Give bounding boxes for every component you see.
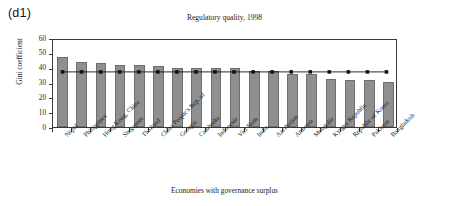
y-axis-tick-label: 30 xyxy=(16,79,46,87)
y-axis-tick xyxy=(49,39,53,40)
x-axis-title: Economies with governance surplus xyxy=(52,186,397,195)
line-marker xyxy=(137,70,141,74)
x-axis-tick xyxy=(52,128,53,132)
y-axis-tick-label: 50 xyxy=(16,49,46,57)
figure-panel-d1: (d1) Regulatory quality, 1998 Gini coeff… xyxy=(0,0,451,206)
line-marker xyxy=(289,70,293,74)
y-axis-tick xyxy=(49,54,53,55)
y-axis-tick-label: 60 xyxy=(16,35,46,43)
line-marker xyxy=(366,70,370,74)
line-marker xyxy=(213,70,217,74)
y-axis-tick-label: 0 xyxy=(16,124,46,132)
line-marker xyxy=(328,70,332,74)
y-axis-tick xyxy=(49,98,53,99)
y-axis-tick-label: 40 xyxy=(16,64,46,72)
panel-tag: (d1) xyxy=(8,6,31,20)
y-axis-tick-label: 10 xyxy=(16,109,46,117)
y-axis-tick xyxy=(49,113,53,114)
y-axis-title: Gini coefficient xyxy=(15,22,24,102)
y-axis-tick-label: 20 xyxy=(16,94,46,102)
line-marker xyxy=(156,70,160,74)
line-marker xyxy=(118,70,122,74)
line-marker xyxy=(99,70,103,74)
line-marker xyxy=(80,70,84,74)
y-axis-tick xyxy=(49,69,53,70)
line-marker xyxy=(61,70,65,74)
y-axis-tick xyxy=(49,84,53,85)
line-marker xyxy=(385,70,389,74)
line-marker xyxy=(194,70,198,74)
line-marker xyxy=(175,70,179,74)
line-marker xyxy=(308,70,312,74)
line-marker xyxy=(270,70,274,74)
line-marker xyxy=(347,70,351,74)
line-marker xyxy=(251,70,255,74)
line-marker xyxy=(232,70,236,74)
chart-title: Regulatory quality, 1998 xyxy=(52,13,397,22)
